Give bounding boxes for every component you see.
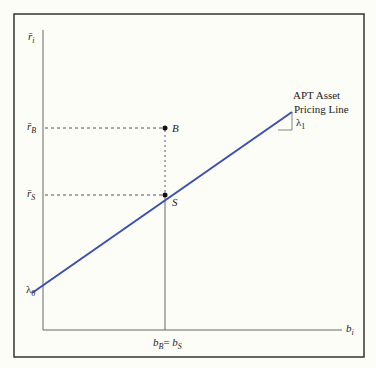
apt-diagram-canvas xyxy=(0,0,376,368)
slope-lambda1-label: λ1 xyxy=(296,117,305,128)
y-axis-label: r̄i xyxy=(28,31,35,42)
x-axis-label: bi xyxy=(346,323,354,334)
point-b-marker xyxy=(163,126,168,131)
r-b-label: r̄B xyxy=(27,121,36,132)
point-s-marker xyxy=(163,193,168,198)
frame-border xyxy=(14,14,364,357)
point-s-label: S xyxy=(172,197,178,208)
line-label-line1: APT Asset xyxy=(293,90,340,101)
intercept-lambda0-label: λ0 xyxy=(26,284,35,295)
apt-pricing-line xyxy=(32,112,292,293)
line-label-line2: Pricing Line xyxy=(294,104,349,115)
x-tick-label-bb-equals-bs: bB= bS xyxy=(153,337,182,348)
point-b-label: B xyxy=(172,123,179,134)
r-s-label: r̄S xyxy=(27,188,35,199)
